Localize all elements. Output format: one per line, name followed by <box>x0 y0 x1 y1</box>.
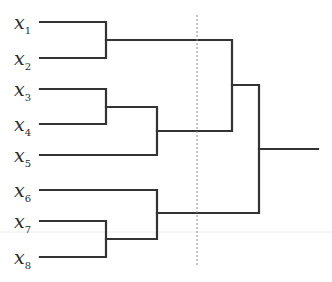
branch-x3-x4 <box>40 89 106 124</box>
leaf-label-x7: x7 <box>14 210 31 235</box>
leaf-label-x4: x4 <box>14 113 31 138</box>
leaf-label-x1: x1 <box>14 11 31 36</box>
branch-x12-x345 <box>106 40 232 131</box>
branch-x7-x8 <box>40 221 106 257</box>
leaf-label-x3: x3 <box>14 78 31 103</box>
dendrogram-branches <box>40 22 318 257</box>
leaf-label-x8: x8 <box>14 246 31 271</box>
branch-root-merge <box>157 85 259 213</box>
leaf-label-x6: x6 <box>14 179 31 204</box>
branch-x1-x2 <box>40 22 106 58</box>
leaf-label-x5: x5 <box>14 144 31 169</box>
branch-x34-x5 <box>40 107 157 155</box>
leaf-label-x2: x2 <box>14 47 31 72</box>
dendrogram-diagram: x1 x2 x3 x4 x5 x6 x7 x8 <box>0 0 332 282</box>
